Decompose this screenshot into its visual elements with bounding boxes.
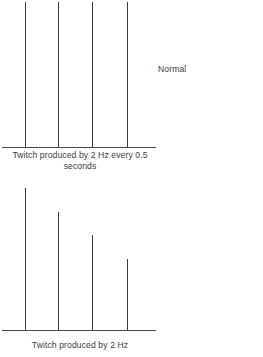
twitch-spike-blocked-3 xyxy=(92,235,93,330)
twitch-spike-blocked-2 xyxy=(58,212,59,330)
twitch-spike-blocked-1 xyxy=(25,188,26,330)
twitch-spike-normal-3 xyxy=(92,2,93,147)
twitch-response-figure: Twitch produced by 2 Hz every 0.5 second… xyxy=(0,0,263,357)
caption-normal: Twitch produced by 2 Hz every 0.5 second… xyxy=(0,150,160,172)
trace-normal xyxy=(0,0,160,150)
twitch-spike-normal-4 xyxy=(127,2,128,147)
trace-blocked xyxy=(0,185,160,333)
caption-blocked-line-1: Twitch produced by 2 Hz xyxy=(32,340,128,350)
annotation-normal-line-1: Normal xyxy=(158,64,258,75)
caption-blocked: Twitch produced by 2 Hz xyxy=(0,340,160,351)
panel-blocked: 75% Neuromuscular blockade produced by a… xyxy=(0,180,263,357)
panel-normal: Twitch produced by 2 Hz every 0.5 second… xyxy=(0,0,263,180)
baseline-blocked xyxy=(2,330,156,331)
twitch-spike-normal-2 xyxy=(58,2,59,147)
twitch-spike-normal-1 xyxy=(25,2,26,147)
caption-normal-line-1: Twitch produced by 2 Hz xyxy=(12,150,108,160)
baseline-normal xyxy=(2,147,156,148)
twitch-spike-blocked-4 xyxy=(127,259,128,330)
annotation-normal: Normal xyxy=(158,64,258,75)
